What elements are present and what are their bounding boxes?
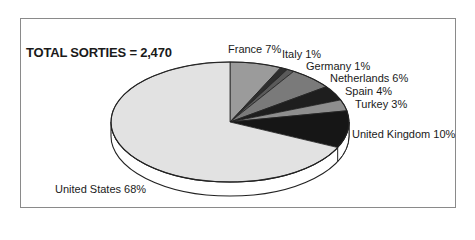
label-spain: Spain 4%: [345, 85, 392, 97]
label-france: France 7%: [228, 43, 281, 55]
chart-title: TOTAL SORTIES = 2,470: [26, 45, 172, 60]
label-italy: Italy 1%: [282, 48, 321, 60]
label-netherlands: Netherlands 6%: [330, 72, 408, 84]
label-united-kingdom: United Kingdom 10%: [352, 128, 455, 140]
label-united-states: United States 68%: [55, 183, 146, 195]
label-germany: Germany 1%: [306, 60, 370, 72]
label-turkey: Turkey 3%: [355, 98, 407, 110]
pie-slices: [111, 62, 349, 182]
